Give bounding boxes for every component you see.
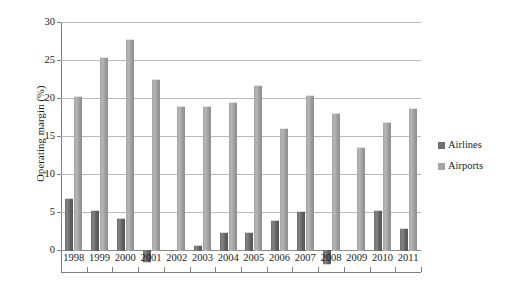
legend-swatch-airlines-icon [438, 142, 445, 149]
legend-label: Airports [448, 160, 483, 172]
bar-airlines-2006 [271, 220, 279, 251]
y-tick-label: 30 [29, 17, 55, 27]
x-tick-mark [215, 267, 216, 272]
y-tick-label: 20 [29, 93, 55, 103]
bar-airports-2001 [152, 79, 160, 251]
chart-legend: AirlinesAirports [438, 139, 510, 181]
bar-airlines-2005 [245, 232, 253, 251]
legend-label: Airlines [448, 139, 482, 151]
y-tick-label: 15 [29, 131, 55, 141]
bar-airports-2005 [254, 85, 262, 251]
bar-airlines-1998 [65, 198, 73, 251]
x-tick-mark [318, 267, 319, 272]
bar-airports-2000 [126, 39, 134, 251]
bar-airlines-1999 [91, 210, 99, 251]
bar-airlines-2000 [117, 218, 125, 251]
bar-airports-2004 [229, 102, 237, 251]
bar-airports-2009 [357, 147, 365, 251]
bar-airlines-2010 [374, 210, 382, 251]
x-tick-mark [267, 267, 268, 272]
y-tick-label: 0 [29, 245, 55, 255]
bar-airlines-2007 [297, 211, 305, 251]
bar-airports-2010 [383, 122, 391, 251]
x-tick-mark [395, 267, 396, 272]
x-tick-mark [241, 267, 242, 272]
x-tick-mark [87, 267, 88, 272]
x-tick-mark [112, 267, 113, 272]
bar-airports-2008 [332, 113, 340, 251]
y-tick-label: 5 [29, 207, 55, 217]
legend-item-airports[interactable]: Airports [438, 160, 510, 172]
bar-airports-1999 [100, 57, 108, 251]
bar-airports-2003 [203, 106, 211, 251]
y-tick-label: 25 [29, 55, 55, 65]
bar-airports-1998 [74, 96, 82, 251]
x-tick-mark [164, 267, 165, 272]
bar-airports-2007 [306, 95, 314, 251]
x-tick-label-2011: 2011 [393, 252, 423, 264]
bar-airlines-2011 [400, 228, 408, 251]
x-tick-mark [190, 267, 191, 272]
bar-airports-2011 [409, 108, 417, 251]
operating-margin-bar-chart: Operating margin (%) 051015202530 199819… [0, 0, 513, 296]
x-tick-mark [344, 267, 345, 272]
x-axis-line [61, 272, 421, 273]
plot-area [61, 22, 421, 250]
zero-line [61, 250, 421, 251]
y-tick-label: 10 [29, 169, 55, 179]
bar-airlines-2003 [194, 245, 202, 251]
x-tick-mark [421, 267, 422, 272]
bar-airports-2006 [280, 128, 288, 251]
x-tick-mark [138, 267, 139, 272]
legend-swatch-airports-icon [438, 163, 445, 170]
legend-item-airlines[interactable]: Airlines [438, 139, 510, 151]
y-tick-mark [57, 250, 61, 251]
bar-airports-2002 [177, 106, 185, 251]
x-tick-mark [61, 267, 62, 272]
x-tick-mark [292, 267, 293, 272]
bar-airlines-2004 [220, 232, 228, 251]
x-tick-mark [370, 267, 371, 272]
